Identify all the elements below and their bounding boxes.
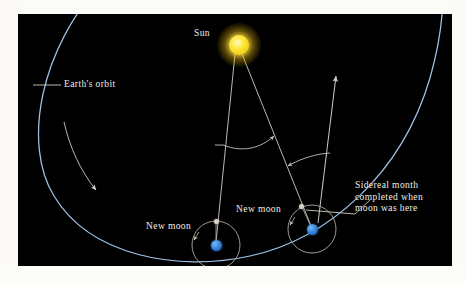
new-moon-left-label: New moon xyxy=(146,221,191,233)
sidereal-month-note: Sidereal month completed when moon was h… xyxy=(355,180,452,215)
angle-arc-right-baseline xyxy=(321,153,330,154)
sky-panel: Sun Earth's orbit New moon New moon Side… xyxy=(18,14,452,266)
orbit-direction-arrow xyxy=(64,122,96,190)
sidereal-note-line-3: moon was here xyxy=(355,203,452,215)
moon-left-dot[interactable] xyxy=(214,219,219,224)
moon-right-dot[interactable] xyxy=(299,204,304,209)
page-margin-bottom xyxy=(0,266,466,284)
angle-arc-right xyxy=(288,154,321,166)
sun-label: Sun xyxy=(194,28,210,40)
sidereal-note-line-2: completed when xyxy=(355,192,452,204)
sidereal-note-line-1: Sidereal month xyxy=(355,180,452,192)
page-margin-top xyxy=(0,0,466,14)
star-direction-arrow xyxy=(318,76,336,223)
new-moon-right-label: New moon xyxy=(236,204,281,216)
page-margin-right xyxy=(452,0,466,284)
sun-disk[interactable] xyxy=(229,35,249,55)
figure-root: Sun Earth's orbit New moon New moon Side… xyxy=(0,0,466,284)
earth-right-dot[interactable] xyxy=(307,224,318,235)
sun-ray-right-earth xyxy=(242,54,311,226)
page-margin-left xyxy=(0,0,18,284)
earths-orbit-label: Earth's orbit xyxy=(64,79,116,91)
angle-arc-left xyxy=(223,136,274,149)
earth-left-dot[interactable] xyxy=(211,240,222,251)
